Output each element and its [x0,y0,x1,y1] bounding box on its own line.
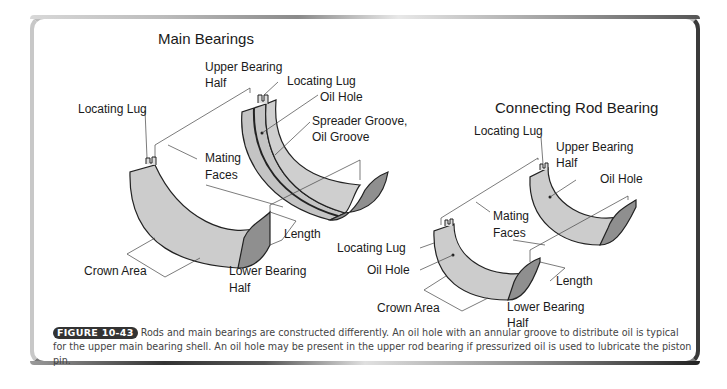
figure-caption: FIGURE 10-43Rods and main bearings are c… [53,326,693,368]
label-rod-mating-faces: Mating [493,209,529,223]
label-rod-locating-lug-upper: Locating Lug [474,124,543,138]
caption-text: Rods and main bearings are constructed d… [53,327,691,366]
label-locating-lug-lower: Locating Lug [78,102,147,116]
label-rod-locating-lug-lower: Locating Lug [337,241,406,255]
lower-main-bearing-shell [130,157,270,268]
label-rod-length: Length [556,274,593,288]
label-rod-lower-bearing-half: Lower Bearing [507,300,584,314]
rod-bearing-title: Connecting Rod Bearing [495,99,658,116]
label-oil-groove: Oil Groove [312,130,370,144]
label-oil-hole: Oil Hole [320,90,363,104]
label-rod-upper-bearing-half-2: Half [556,156,578,170]
label-rod-mating-faces-2: Faces [493,226,526,240]
label-mating-faces: Mating [205,151,241,165]
main-bearings-title: Main Bearings [158,30,254,47]
label-mating-faces-2: Faces [205,168,238,182]
label-rod-upper-bearing-half: Upper Bearing [556,140,633,154]
label-upper-bearing-half: Upper Bearing [205,60,282,74]
figure-number-badge: FIGURE 10-43 [53,327,138,339]
label-spreader-groove: Spreader Groove, [312,114,407,128]
label-crown-area: Crown Area [84,264,147,278]
label-length: Length [284,227,321,241]
label-rod-oil-hole-upper: Oil Hole [600,172,643,186]
label-lower-bearing-half: Lower Bearing [229,264,306,278]
label-rod-oil-hole-lower: Oil Hole [367,263,410,277]
label-rod-crown-area: Crown Area [377,301,440,315]
label-upper-bearing-half-2: Half [205,76,227,90]
label-locating-lug-upper: Locating Lug [287,74,356,88]
label-lower-bearing-half-2: Half [229,281,251,295]
